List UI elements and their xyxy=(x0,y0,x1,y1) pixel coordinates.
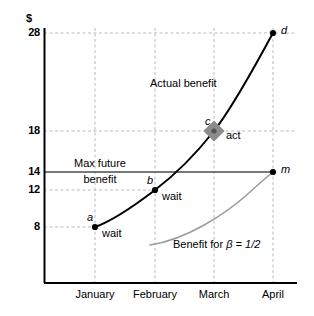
point-d-dot xyxy=(270,30,276,36)
chart-plot-area xyxy=(0,0,314,316)
point-label-d: d xyxy=(281,25,287,36)
annotation-actual-benefit: Actual benefit xyxy=(150,78,217,89)
x-tick-april: April xyxy=(240,289,306,300)
x-tick-march: March xyxy=(180,289,248,300)
annotation-wait-b: wait xyxy=(162,191,182,202)
y-tick-14: 14 xyxy=(22,166,40,177)
point-label-b: b xyxy=(147,175,153,186)
benefit-chart: $ 28 18 14 12 8 January February March A… xyxy=(0,0,314,316)
beta-annotation-suffix: = 1/2 xyxy=(233,238,261,250)
y-tick-12: 12 xyxy=(22,184,40,195)
point-c-dot xyxy=(211,128,216,133)
y-tick-8: 8 xyxy=(22,221,40,232)
point-m-dot xyxy=(270,169,276,175)
annotation-act: act xyxy=(226,130,241,141)
y-tick-28: 28 xyxy=(22,27,40,38)
annotation-max-future-benefit-line2: benefit xyxy=(55,174,145,185)
annotation-wait-a: wait xyxy=(102,228,122,239)
y-tick-18: 18 xyxy=(22,125,40,136)
actual-benefit-curve xyxy=(95,33,273,227)
point-a-dot xyxy=(92,224,98,230)
beta-annotation-prefix: Benefit for xyxy=(173,238,226,250)
beta-benefit-curve xyxy=(150,172,273,245)
point-label-m: m xyxy=(281,164,290,175)
annotation-max-future-benefit-line1: Max future xyxy=(55,158,145,169)
point-label-c: c xyxy=(205,116,211,127)
point-b-dot xyxy=(152,187,158,193)
y-axis-unit-label: $ xyxy=(26,13,32,24)
point-label-a: a xyxy=(87,212,93,223)
annotation-beta-benefit: Benefit for β = 1/2 xyxy=(173,239,260,250)
